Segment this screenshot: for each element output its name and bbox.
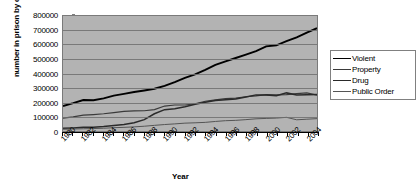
gridline xyxy=(63,15,317,16)
legend-item: Drug xyxy=(333,75,414,86)
plot-area xyxy=(62,15,318,132)
legend-item-label: Drug xyxy=(352,76,369,85)
y-axis-tick-label: 800000 xyxy=(33,11,58,20)
legend-swatch-icon xyxy=(333,91,351,92)
legend-swatch-icon xyxy=(333,58,351,59)
y-axis-tick-label: 100000 xyxy=(33,113,58,122)
legend-item-label: Property xyxy=(352,65,381,74)
legend-item-label: Violent xyxy=(352,54,375,63)
y-axis-tick-label: 500000 xyxy=(33,54,58,63)
y-axis-tick-label: 300000 xyxy=(33,84,58,93)
legend-item: Violent xyxy=(333,53,414,64)
y-axis-tick-label: 0 xyxy=(54,128,58,137)
gridline xyxy=(63,88,317,89)
y-axis-tick-label: 700000 xyxy=(33,25,58,34)
legend: ViolentPropertyDrugPublic Order xyxy=(330,50,416,100)
gridline xyxy=(63,44,317,45)
legend-item: Property xyxy=(333,64,414,75)
y-axis-tick-label: 200000 xyxy=(33,98,58,107)
y-axis-tick-labels: 8000007000006000005000004000003000002000… xyxy=(14,0,60,196)
gridline xyxy=(63,103,317,104)
gridline xyxy=(63,74,317,75)
legend-item-label: Public Order xyxy=(352,87,394,96)
y-axis-tick-label: 600000 xyxy=(33,40,58,49)
x-axis-title: Year xyxy=(172,172,189,181)
gridline xyxy=(63,30,317,31)
y-axis-tick-label: 400000 xyxy=(33,69,58,78)
legend-swatch-icon xyxy=(333,80,351,81)
line-chart: number in prison by crime type 800000700… xyxy=(0,0,420,196)
gridline xyxy=(63,117,317,118)
gridline xyxy=(63,59,317,60)
legend-swatch-icon xyxy=(333,69,351,70)
legend-item: Public Order xyxy=(333,86,414,97)
